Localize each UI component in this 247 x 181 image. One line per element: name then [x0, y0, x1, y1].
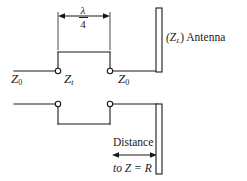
lower-right-terminal — [107, 101, 112, 106]
arrowhead-left-lambda — [58, 13, 65, 19]
arrowhead-left-distance — [112, 152, 119, 158]
distance-dimension-arrow — [112, 152, 157, 158]
upper-right-terminal — [107, 68, 112, 73]
upper-left-terminal — [55, 68, 60, 73]
lower-antenna-element — [156, 104, 162, 174]
antenna-label: (ZL) Antenna — [166, 32, 225, 44]
upper-antenna-element — [156, 8, 162, 72]
impedance-label-z0-right: Z0 — [118, 72, 129, 85]
z0-right-subscript: 0 — [125, 78, 129, 87]
arrowhead-right-lambda — [103, 13, 110, 19]
quarter-wavelength-label: λ 4 — [76, 5, 90, 30]
fraction-denominator: 4 — [76, 19, 90, 31]
lambda-symbol: λ — [76, 5, 90, 17]
distance-target-label: to Z = R — [113, 163, 152, 175]
antenna-zl-subscript: L — [176, 37, 180, 45]
upper-conductor — [14, 52, 157, 71]
impedance-label-zt: Zt — [64, 72, 73, 85]
z0-left-subscript: 0 — [18, 78, 22, 87]
lower-conductor — [14, 104, 157, 124]
quarter-wave-transformer-diagram: Z0 Zt Z0 (ZL) Antenna λ 4 Distance to Z … — [0, 0, 247, 181]
impedance-label-z0-left: Z0 — [11, 72, 22, 85]
antenna-elements — [156, 8, 162, 174]
antenna-label-text: ) Antenna — [180, 31, 225, 43]
diagram-canvas — [0, 0, 247, 181]
distance-label: Distance — [113, 137, 153, 149]
antenna-zl-symbol: (Z — [166, 31, 176, 43]
lower-left-terminal — [55, 101, 60, 106]
